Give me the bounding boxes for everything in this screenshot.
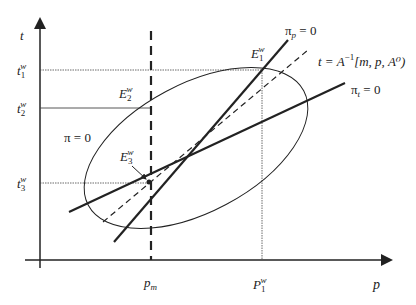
t2w-label: t2w bbox=[17, 100, 26, 118]
a-inverse-label: t = A−1[m, p, A⁰) bbox=[318, 53, 405, 68]
a-inverse-dashed-line bbox=[103, 50, 308, 222]
diagram-canvas: t p t1w t2w t3w pm P1w E1w E2w E3w πp = … bbox=[0, 0, 416, 305]
p1w-label: P1w bbox=[253, 276, 266, 294]
pi-t-zero-line bbox=[69, 83, 345, 212]
e2w-label: E2w bbox=[119, 85, 132, 103]
y-axis-label: t bbox=[20, 29, 24, 42]
e1w-label: E1w bbox=[251, 45, 264, 63]
diagram-graphics bbox=[0, 0, 416, 305]
pi-p-zero-label: πp = 0 bbox=[285, 24, 316, 40]
e3w-point bbox=[147, 180, 152, 185]
t3w-label: t3w bbox=[17, 175, 26, 193]
x-axis-label: p bbox=[373, 278, 380, 292]
t1w-label: t1w bbox=[17, 62, 26, 80]
pi-t-zero-label: πt = 0 bbox=[351, 83, 380, 99]
pi-zero-label: π = 0 bbox=[64, 131, 91, 144]
e3w-label: E3w bbox=[120, 148, 133, 166]
e3w-pointer-arrow bbox=[132, 166, 146, 179]
pm-label: pm bbox=[144, 276, 157, 292]
